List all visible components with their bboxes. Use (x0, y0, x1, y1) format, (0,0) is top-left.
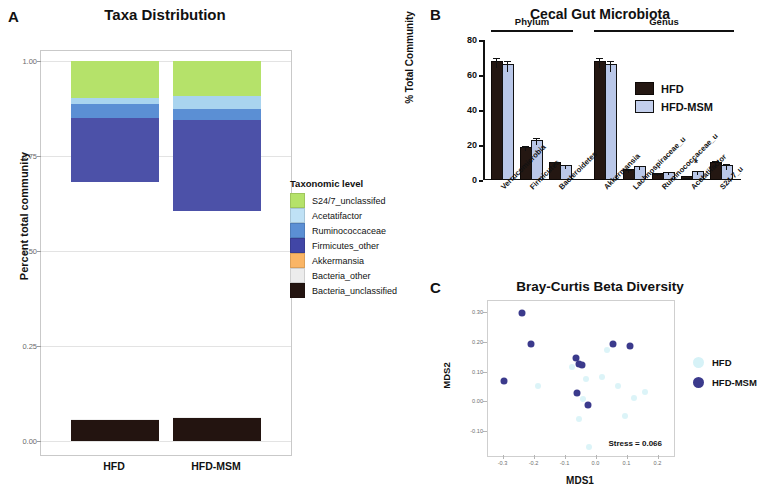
panel-b-error-cap (636, 166, 643, 167)
panel-c-point-hfd (642, 389, 648, 395)
panel-c-y-tickmark (483, 342, 487, 343)
panel-b-group-line-genus (594, 30, 734, 32)
panel-a-title: Taxa Distribution (35, 6, 295, 23)
panel-b-y-tickmark (479, 75, 483, 77)
panel-b-error-cap (493, 58, 500, 59)
panel-a-legend-label: Ruminococcaceae (312, 226, 386, 236)
panel-a-segment-bacteria-unclassified (71, 420, 159, 441)
panel-c-x-tick-label: 0.2 (654, 460, 662, 466)
panel-c-point-hfd-msm (519, 309, 526, 316)
panel-c-x-tickmark (627, 455, 628, 459)
panel-a-y-tickmark (37, 61, 41, 62)
panel-b-error-bar (610, 61, 611, 72)
panel-b-letter: B (430, 6, 441, 23)
panel-c-point-hfd (576, 416, 582, 422)
panel-a-y-tickmark (37, 346, 41, 347)
panel-b-error-cap (694, 171, 701, 172)
panel-a-legend-swatch (290, 253, 305, 268)
panel-c-point-hfd (604, 347, 610, 353)
panel-c-point-hfd-msm (574, 390, 581, 397)
panel-a-y-tick-label: 0.25 (22, 342, 37, 351)
panel-a-letter: A (8, 8, 19, 25)
panel-a-segment-acetatifactor (71, 98, 159, 104)
panel-a-y-tick-label: 0.00 (22, 437, 37, 446)
panel-a-y-tickmark (37, 156, 41, 157)
panel-c-point-hfd-msm (584, 402, 591, 409)
panel-a-legend-label: Akkermansia (312, 256, 364, 266)
panel-b-legend-item: HFD-MSM (635, 100, 713, 113)
panel-c-y-tickmark (483, 401, 487, 402)
panel-b-legend-label: HFD-MSM (661, 101, 713, 113)
panel-a-legend-swatch (290, 208, 305, 223)
panel-b-error-bar (599, 58, 600, 69)
panel-a-segment-akkermansia (71, 182, 159, 419)
panel-a-legend-label: S24/7_unclassifed (312, 196, 386, 206)
panel-b-group-line-phylum (491, 30, 573, 32)
panel-a-y-axis-label: Percent total community (18, 106, 30, 326)
panel-a-legend: Taxonomic level S24/7_unclassifedAcetati… (290, 178, 436, 299)
panel-c-x-tick-label: -0.3 (498, 460, 508, 466)
panel-b-error-cap (533, 138, 540, 139)
panel-a-legend-label: Firmicutes_other (312, 241, 379, 251)
panel-a-legend-item: Ruminococcaceae (290, 224, 436, 237)
panel-b-y-tick-label: 0 (472, 175, 477, 185)
panel-c-point-hfd (535, 383, 541, 389)
panel-a-y-tick-label: 1.00 (22, 57, 37, 66)
panel-b-legend: HFDHFD-MSM (635, 82, 713, 118)
panel-c-x-tickmark (596, 455, 597, 459)
panel-b-y-axis-label: % Total Community (404, 0, 415, 138)
panel-c-point-hfd (622, 413, 628, 419)
panel-b-error-cap (723, 164, 730, 165)
panel-a-legend-label: Bacteria_other (312, 271, 371, 281)
panel-a-bar-hfd-msm (173, 51, 261, 455)
panel-b-error-bar (507, 61, 508, 72)
panel-c-legend-item: HFD (693, 357, 757, 368)
panel-a-segment-firmicutes-other (173, 120, 261, 210)
panel-c-x-tick-label: -0.1 (560, 460, 570, 466)
panel-a-plot-area: 1.000.750.500.250.00 (40, 50, 292, 456)
panel-b-bar-verrucomicrobia-hfd-msm (502, 64, 514, 180)
panel-c-y-tickmark (483, 312, 487, 313)
panel-b-group-label-genus: Genus (594, 16, 734, 27)
panel-c-legend-item: HFD-MSM (693, 377, 757, 388)
panel-c-point-hfd-msm (528, 341, 535, 348)
panel-b-y-tick-label: 20 (467, 140, 477, 150)
panel-c-x-tick-label: 0.0 (592, 460, 600, 466)
panel-c-plot-area: Stress = 0.066 (487, 300, 675, 457)
panel-a-bar-hfd (71, 51, 159, 455)
panel-a-legend-item: S24/7_unclassifed (290, 194, 436, 207)
panel-a-segment-s24-7-unclassifed (173, 61, 261, 96)
panel-a-segment-s24-7-unclassifed (71, 61, 159, 98)
panel-a-taxa-distribution: A Taxa Distribution 1.000.750.500.250.00… (0, 0, 440, 498)
panel-c-x-tickmark (534, 455, 535, 459)
panel-a-segment-firmicutes-other (71, 118, 159, 182)
panel-c-point-hfd (586, 444, 592, 450)
panel-a-legend-item: Acetatifactor (290, 209, 436, 222)
panel-a-legend-item: Bacteria_other (290, 269, 436, 282)
panel-c-point-hfd-msm (500, 378, 507, 385)
panel-a-segment-bacteria-unclassified (173, 418, 261, 441)
panel-a-legend-label: Bacteria_unclassified (312, 286, 397, 296)
panel-c-x-tick-label: 0.1 (623, 460, 631, 466)
panel-c-bray-curtis-beta-diversity: C Bray-Curtis Beta Diversity Stress = 0.… (425, 262, 765, 498)
panel-b-y-axis (483, 40, 485, 180)
panel-b-error-cap (607, 61, 614, 62)
panel-a-legend-item: Firmicutes_other (290, 239, 436, 252)
panel-c-letter: C (430, 279, 441, 296)
panel-c-point-hfd-msm (626, 343, 633, 350)
panel-a-segment-akkermansia (173, 211, 261, 417)
panel-c-y-tick-label: 0.20 (461, 339, 483, 345)
panel-b-y-tick-label: 60 (467, 70, 477, 80)
panel-b-y-tickmark (479, 145, 483, 147)
panel-b-error-bar (496, 58, 497, 69)
panel-b-legend-item: HFD (635, 82, 713, 95)
panel-c-y-tickmark (483, 372, 487, 373)
panel-b-group-label-phylum: Phylum (491, 16, 573, 27)
panel-c-point-hfd (580, 396, 586, 402)
panel-c-y-tick-label: 0.10 (461, 369, 483, 375)
panel-c-point-hfd-msm (578, 362, 585, 369)
panel-a-legend-item: Bacteria_unclassified (290, 284, 436, 297)
panel-c-x-tickmark (503, 455, 504, 459)
panel-a-legend-swatch (290, 238, 305, 253)
panel-c-point-hfd-msm (609, 341, 616, 348)
